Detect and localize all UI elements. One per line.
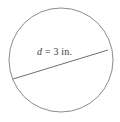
diameter-label: d = 3 in. [37,46,72,58]
circle-outline [9,8,113,112]
figure-canvas: d = 3 in. [0,0,120,122]
circle-diagram-svg [0,0,120,122]
diameter-unit: in. [61,46,72,57]
